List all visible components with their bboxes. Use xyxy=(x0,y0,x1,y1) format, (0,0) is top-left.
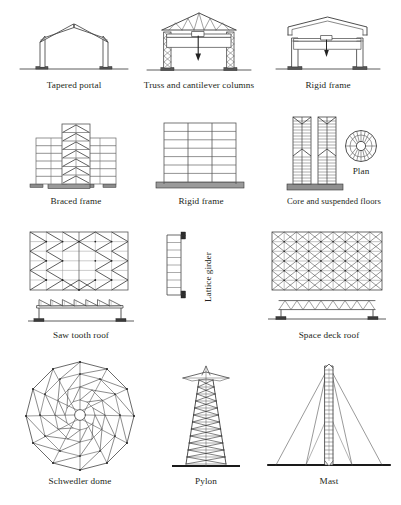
figure-lattice-girder xyxy=(160,231,194,301)
caption-saw-tooth-roof: Saw tooth roof xyxy=(22,330,140,341)
figure-rigid-frame-portal xyxy=(272,10,382,76)
caption-schwedler-dome: Schwedler dome xyxy=(16,476,144,487)
caption-braced-frame: Braced frame xyxy=(18,196,134,207)
figure-space-deck-roof-plan xyxy=(270,230,384,292)
figure-truss-and-cantilever-columns xyxy=(145,8,253,76)
caption-truss-and-cantilever-columns: Truss and cantilever columns xyxy=(128,80,270,91)
figure-space-deck-roof-elevation xyxy=(268,297,386,323)
figure-saw-tooth-roof-plan xyxy=(28,230,130,292)
caption-core-and-suspended-floors: Core and suspended floors xyxy=(268,196,400,207)
figure-schwedler-dome xyxy=(22,358,138,472)
figure-sheet: Tapered portal xyxy=(0,0,401,505)
figure-rigid-frame-multistorey xyxy=(152,118,248,192)
figure-saw-tooth-roof-elevation xyxy=(28,297,134,325)
caption-pylon: Pylon xyxy=(172,476,240,487)
figure-pylon xyxy=(172,362,240,472)
caption-rigid-frame-portal: Rigid frame xyxy=(272,80,384,91)
figure-mast xyxy=(266,362,392,472)
caption-plan: Plan xyxy=(341,166,381,177)
caption-space-deck-roof: Space deck roof xyxy=(268,330,390,341)
caption-mast: Mast xyxy=(266,476,392,487)
figure-braced-frame xyxy=(24,116,128,192)
caption-tapered-portal: Tapered portal xyxy=(8,80,140,91)
figure-core-and-suspended-floors xyxy=(285,114,345,194)
caption-rigid-frame-multistorey: Rigid frame xyxy=(146,196,256,207)
figure-tapered-portal xyxy=(18,14,130,76)
figure-plan xyxy=(341,126,381,166)
caption-lattice-girder: Lattice girder xyxy=(203,252,213,302)
